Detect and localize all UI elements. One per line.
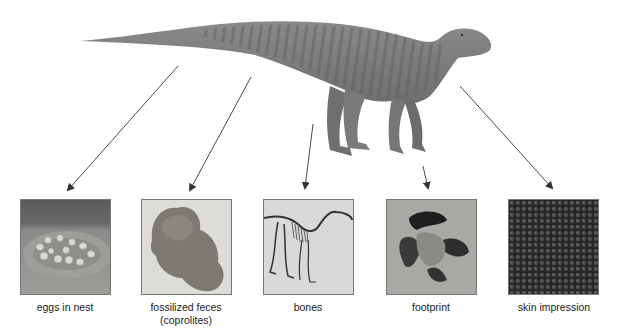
caption-eggs-in-nest: eggs in nest xyxy=(0,301,130,314)
caption-skin-impression: skin impression xyxy=(489,301,619,314)
arrow-to-coprolites xyxy=(190,77,251,190)
arrow-to-bones xyxy=(305,124,313,188)
caption-bones: bones xyxy=(243,301,373,314)
panel-coprolites xyxy=(141,199,232,295)
eggs-nest-image xyxy=(21,200,111,295)
panel-eggs-in-nest xyxy=(20,199,111,295)
skeleton-image xyxy=(264,200,354,295)
caption-coprolites: fossilized feces (coprolites) xyxy=(121,301,251,327)
panel-bones xyxy=(263,199,354,295)
arrow-to-footprint xyxy=(423,166,428,188)
arrow-to-skin xyxy=(460,86,552,188)
caption-footprint: footprint xyxy=(366,301,496,314)
skin-texture-image xyxy=(509,200,599,295)
footprint-image xyxy=(387,200,477,295)
arrows-layer xyxy=(0,0,619,200)
panel-skin-impression xyxy=(508,199,599,295)
panel-footprint xyxy=(386,199,477,295)
arrow-to-eggs xyxy=(68,66,178,190)
coprolite-image xyxy=(142,200,232,295)
caption-coprolites-line1: fossilized feces xyxy=(121,301,251,314)
caption-coprolites-line2: (coprolites) xyxy=(121,314,251,327)
